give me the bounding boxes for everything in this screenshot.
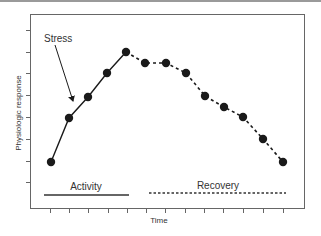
data-point-marker [201,92,209,100]
activity-label: Activity [70,181,102,192]
y-axis-label: Physiologic response [14,75,23,151]
data-point-marker [84,93,92,101]
data-point-marker [141,59,149,67]
stress-arrow-icon [55,45,73,101]
stress-label: Stress [44,33,72,44]
y-axis-ticks [26,31,31,183]
data-point-marker [239,113,247,121]
stress-recovery-chart: Stress Activity Recovery Time Physiologi… [0,0,321,236]
data-point-marker [162,59,170,67]
data-point-marker [122,48,130,56]
data-point-marker [279,158,287,166]
data-point-marker [259,135,267,143]
data-point-marker [220,103,228,111]
x-axis-label: Time [150,216,168,225]
recovery-series-line [126,52,283,162]
recovery-label: Recovery [197,180,239,191]
data-point-marker [103,69,111,77]
data-point-marker [47,158,55,166]
data-point-marker [65,114,73,122]
x-axis-ticks [51,209,284,214]
data-point-marker [182,69,190,77]
data-points [47,48,287,166]
